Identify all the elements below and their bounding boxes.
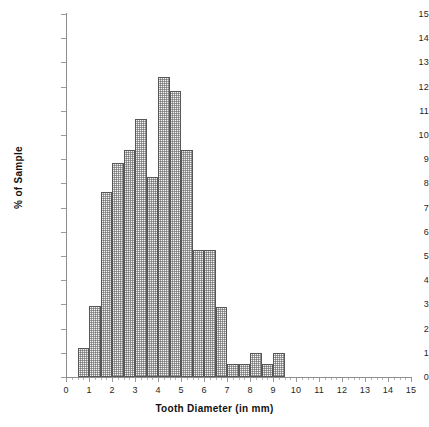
- x-tick-label-3: 3: [123, 385, 147, 395]
- x-tick-0.25: [72, 378, 73, 380]
- x-tick-7.5: [239, 378, 240, 380]
- bar: [158, 77, 170, 377]
- x-tick-4.5: [170, 378, 171, 380]
- x-tick-label-9: 9: [261, 385, 285, 395]
- x-tick-8.75: [267, 378, 268, 380]
- x-tick-0.75: [83, 378, 84, 380]
- x-tick-6.75: [221, 378, 222, 380]
- bar: [227, 364, 239, 377]
- x-tick-11.75: [336, 378, 337, 380]
- x-tick-4: [158, 378, 159, 382]
- x-tick-6: [204, 378, 205, 382]
- x-tick-label-7: 7: [215, 385, 239, 395]
- bar: [147, 177, 159, 377]
- x-tick-5: [181, 378, 182, 382]
- x-tick-10.25: [302, 378, 303, 380]
- x-tick-1.5: [101, 378, 102, 380]
- x-tick-label-11: 11: [307, 385, 331, 395]
- x-tick-9.5: [285, 378, 286, 380]
- x-tick-2.25: [118, 378, 119, 380]
- x-tick-9.75: [290, 378, 291, 380]
- x-tick-14.5: [400, 378, 401, 380]
- x-tick-5.75: [198, 378, 199, 380]
- bar: [273, 353, 285, 377]
- x-tick-1.25: [95, 378, 96, 380]
- bar: [170, 91, 182, 377]
- x-tick-4.25: [164, 378, 165, 380]
- x-tick-10.5: [308, 378, 309, 380]
- x-tick-7.75: [244, 378, 245, 380]
- bar: [239, 364, 251, 377]
- x-tick-8: [250, 378, 251, 382]
- x-tick-label-14: 14: [376, 385, 400, 395]
- x-tick-11.25: [325, 378, 326, 380]
- x-tick-8.5: [262, 378, 263, 380]
- bar: [101, 192, 113, 377]
- bar: [112, 163, 124, 377]
- x-tick-6.5: [216, 378, 217, 380]
- x-tick-label-6: 6: [192, 385, 216, 395]
- x-tick-9: [273, 378, 274, 382]
- y-axis-title: % of Sample: [13, 108, 24, 248]
- x-tick-15: [411, 378, 412, 382]
- histogram-chart: 0123456789101112131415 01234567891011121…: [0, 0, 429, 427]
- x-tick-label-0: 0: [54, 385, 78, 395]
- x-tick-3.5: [147, 378, 148, 380]
- bar: [124, 150, 136, 377]
- x-tick-13.25: [371, 378, 372, 380]
- x-tick-2: [112, 378, 113, 382]
- x-tick-10.75: [313, 378, 314, 380]
- x-tick-14.75: [405, 378, 406, 380]
- x-tick-13: [365, 378, 366, 382]
- x-tick-10: [296, 378, 297, 382]
- x-tick-5.25: [187, 378, 188, 380]
- plot-area: [66, 14, 411, 377]
- x-tick-12.75: [359, 378, 360, 380]
- x-tick-14.25: [394, 378, 395, 380]
- bar: [181, 150, 193, 377]
- x-tick-label-15: 15: [399, 385, 423, 395]
- x-tick-6.25: [210, 378, 211, 380]
- x-tick-label-5: 5: [169, 385, 193, 395]
- x-tick-label-12: 12: [330, 385, 354, 395]
- x-tick-label-8: 8: [238, 385, 262, 395]
- x-tick-label-4: 4: [146, 385, 170, 395]
- x-tick-label-1: 1: [77, 385, 101, 395]
- x-tick-5.5: [193, 378, 194, 380]
- bar: [78, 348, 90, 377]
- x-tick-2.5: [124, 378, 125, 380]
- x-tick-0.5: [78, 378, 79, 380]
- x-tick-12.25: [348, 378, 349, 380]
- bar: [216, 307, 228, 377]
- x-tick-1.75: [106, 378, 107, 380]
- x-tick-7: [227, 378, 228, 382]
- x-tick-12.5: [354, 378, 355, 380]
- x-tick-8.25: [256, 378, 257, 380]
- x-tick-13.75: [382, 378, 383, 380]
- x-tick-3.25: [141, 378, 142, 380]
- bar: [204, 250, 216, 377]
- x-tick-11: [319, 378, 320, 382]
- bar: [135, 119, 147, 377]
- x-tick-14: [388, 378, 389, 382]
- x-tick-0: [66, 378, 67, 382]
- x-tick-9.25: [279, 378, 280, 380]
- bar: [250, 353, 262, 377]
- x-axis-title: Tooth Diameter (in mm): [0, 403, 429, 414]
- x-tick-1: [89, 378, 90, 382]
- x-tick-13.5: [377, 378, 378, 380]
- x-tick-7.25: [233, 378, 234, 380]
- bar: [89, 306, 101, 377]
- x-tick-11.5: [331, 378, 332, 380]
- x-tick-4.75: [175, 378, 176, 380]
- x-tick-3: [135, 378, 136, 382]
- bar: [193, 250, 205, 377]
- x-tick-label-10: 10: [284, 385, 308, 395]
- x-tick-2.75: [129, 378, 130, 380]
- bar: [262, 364, 274, 377]
- x-tick-label-13: 13: [353, 385, 377, 395]
- x-tick-3.75: [152, 378, 153, 380]
- x-tick-label-2: 2: [100, 385, 124, 395]
- x-tick-12: [342, 378, 343, 382]
